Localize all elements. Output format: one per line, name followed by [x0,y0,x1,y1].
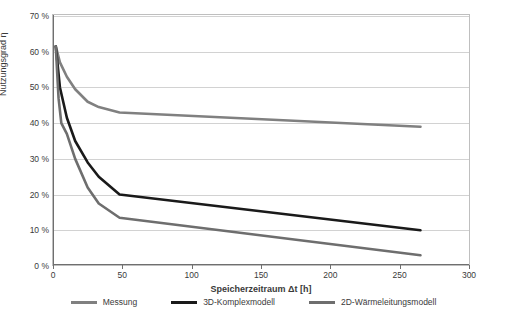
legend-label: 3D-Komplexmodell [203,297,275,307]
legend-item[interactable]: 3D-Komplexmodell [171,297,275,307]
x-tick-label: 0 [38,270,68,280]
x-tick-label: 150 [246,270,276,280]
y-tick-label: 30 % [9,154,49,164]
y-tick-label: 10 % [9,225,49,235]
legend-swatch [309,301,335,304]
series-line [56,46,421,230]
x-axis-title: Speicherzeitraum Δt [h] [52,284,470,294]
y-tick-label: 70 % [9,11,49,21]
y-axis-title: Nutzungsgrad η [0,32,8,96]
series-line [56,46,421,126]
legend-item[interactable]: 2D-Wärmeleitungsmodell [309,297,436,307]
series-lines [53,15,471,267]
legend-label: Messung [103,297,138,307]
x-tick-label: 100 [177,270,207,280]
y-tick-label: 20 % [9,190,49,200]
plot-area: 0 %10 %20 %30 %40 %50 %60 %70 % 05010015… [52,14,470,266]
legend-swatch [171,301,197,304]
chart-container: Nutzungsgrad η 0 %10 %20 %30 %40 %50 %60… [0,0,507,317]
legend-label: 2D-Wärmeleitungsmodell [341,297,436,307]
x-tick-label: 300 [454,270,484,280]
y-tick-label: 60 % [9,47,49,57]
legend-swatch [71,301,97,304]
x-tick-label: 200 [315,270,345,280]
legend-item[interactable]: Messung [71,297,138,307]
x-tick-label: 50 [107,270,137,280]
y-tick-label: 50 % [9,82,49,92]
x-tick-label: 250 [385,270,415,280]
y-tick-label: 40 % [9,118,49,128]
chart-legend: Messung3D-Komplexmodell2D-Wärmeleitungsm… [0,297,507,307]
